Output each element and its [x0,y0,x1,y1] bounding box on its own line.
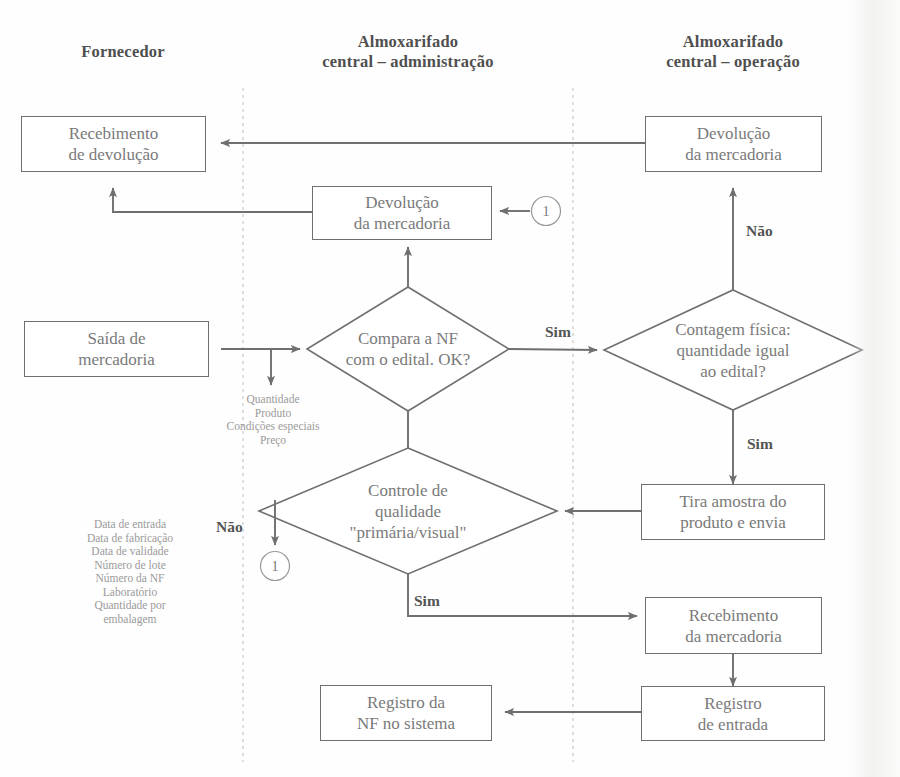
annotation-lote-line2: Data de fabricação [50,532,210,546]
lane-title-op-line2: central – operação [613,52,853,72]
annotation-nf-line3: Condições especiais [188,420,358,434]
edge-controle-sim-to-recebimento [408,574,637,616]
annotation-nf-line1: Quantidade [188,393,358,407]
flowchart-page: Fornecedor Almoxarifado central – admini… [0,0,900,777]
lane-title-fornecedor-text: Fornecedor [13,42,233,62]
edge-label-sim-contagem: Sim [747,435,773,453]
node-registro-entrada-line2: de entrada [698,714,768,735]
node-devolucao-adm-line1: Devolução [354,192,451,213]
annotation-lote-line1: Data de entrada [50,518,210,532]
node-devolucao-da-mercadoria-administracao[interactable]: Devolução da mercadoria [312,186,492,240]
edge-label-sim-compara: Sim [545,323,571,341]
annotation-nf-line2: Produto [188,407,358,421]
node-tira-amostra-line2: produto e envia [679,512,786,533]
node-saida-line2: mercadoria [78,349,154,370]
lane-title-adm-line1: Almoxarifado [283,32,533,52]
connector-label-left-1[interactable]: 1 [260,551,290,581]
node-saida-de-mercadoria[interactable]: Saída de mercadoria [24,321,209,377]
annotation-lote-fields: Data de entrada Data de fabricação Data … [50,518,210,626]
node-recebimento-mercadoria-line2: da mercadoria [685,626,782,647]
node-tira-amostra-line1: Tira amostra do [679,491,786,512]
lane-title-fornecedor: Fornecedor [13,42,233,62]
node-recebimento-de-devolucao[interactable]: Recebimento de devolução [21,116,206,172]
node-registro-nf-line1: Registro da [357,692,455,713]
edge-label-sim-controle: Sim [414,592,440,610]
annotation-lote-line8: embalagem [50,613,210,627]
edge-label-nao-controle: Não [216,518,243,536]
node-saida-line1: Saída de [78,328,154,349]
lane-title-almoxarifado-operacao: Almoxarifado central – operação [613,32,853,72]
annotation-lote-line5: Número da NF [50,572,210,586]
edge-label-nao-contagem: Não [746,222,773,240]
node-devolucao-da-mercadoria-operacao[interactable]: Devolução da mercadoria [645,116,822,172]
edge-compara-sim-to-contagem [509,349,597,350]
decision-controle-qualidade-shape [259,448,557,574]
node-recebimento-mercadoria-line1: Recebimento [685,605,782,626]
connector-label-right-1[interactable]: 1 [531,196,561,226]
node-registro-de-entrada[interactable]: Registro de entrada [641,686,825,741]
annotation-lote-line7: Quantidade por [50,599,210,613]
edge-devolucao-adm-to-recebimento [113,188,312,212]
lane-title-adm-line2: central – administração [283,52,533,72]
node-tira-amostra-do-produto[interactable]: Tira amostra do produto e envia [641,484,825,540]
node-recebimento-de-devolucao-line1: Recebimento [68,123,158,144]
lane-title-op-line1: Almoxarifado [613,32,853,52]
decision-contagem-fisica-shape [604,290,862,410]
node-registro-entrada-line1: Registro [698,693,768,714]
node-devolucao-op-line1: Devolução [685,123,782,144]
node-devolucao-op-line2: da mercadoria [685,144,782,165]
annotation-lote-line4: Número de lote [50,559,210,573]
annotation-nf-fields: Quantidade Produto Condições especiais P… [188,393,358,447]
node-recebimento-de-devolucao-line2: de devolução [68,144,158,165]
node-registro-nf-line2: NF no sistema [357,713,455,734]
annotation-lote-line6: Laboratório [50,586,210,600]
node-recebimento-da-mercadoria[interactable]: Recebimento da mercadoria [645,597,822,654]
node-devolucao-adm-line2: da mercadoria [354,213,451,234]
annotation-nf-line4: Preço [188,434,358,448]
annotation-lote-line3: Data de validade [50,545,210,559]
lane-title-almoxarifado-administracao: Almoxarifado central – administração [283,32,533,72]
node-registro-da-nf-no-sistema[interactable]: Registro da NF no sistema [320,685,492,741]
